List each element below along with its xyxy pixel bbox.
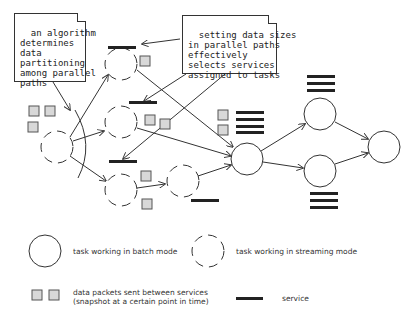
packet bbox=[28, 122, 38, 132]
legend-service-label: service bbox=[282, 294, 309, 303]
service-bottom bbox=[109, 160, 137, 163]
service-stack-merge bbox=[236, 111, 264, 134]
packet bbox=[142, 199, 152, 209]
packet bbox=[29, 106, 39, 116]
legend-packet-icon bbox=[32, 290, 42, 300]
note-partitioning: an algorithm determines data partitionin… bbox=[14, 13, 86, 82]
legend-batch-label: task working in batch mode bbox=[73, 247, 177, 256]
batch-task-sink bbox=[368, 131, 400, 163]
service-bottom-right bbox=[191, 199, 219, 202]
note-fold-icon bbox=[77, 13, 86, 22]
streaming-task-middle bbox=[105, 106, 137, 138]
batch-task-upper bbox=[304, 98, 336, 130]
service-top bbox=[108, 46, 136, 49]
legend-service-icon bbox=[236, 297, 263, 300]
streaming-task-bottom-right bbox=[167, 165, 199, 197]
legend-packet-icon bbox=[49, 290, 59, 300]
batch-task-merge bbox=[231, 143, 263, 175]
packet bbox=[145, 115, 155, 125]
streaming-task-bottom bbox=[105, 174, 137, 206]
streaming-task-top bbox=[105, 48, 137, 80]
legend-packets-label: data packets sent between services (snap… bbox=[73, 288, 209, 306]
service-middle bbox=[129, 101, 157, 104]
packet bbox=[218, 110, 228, 120]
packet bbox=[141, 171, 151, 181]
packet bbox=[140, 56, 150, 66]
batch-task-lower bbox=[304, 155, 336, 187]
note-services: setting data sizes in parallel paths eff… bbox=[182, 15, 277, 74]
legend-batch-icon bbox=[29, 235, 61, 267]
note-partitioning-text: an algorithm determines data partitionin… bbox=[20, 28, 96, 88]
note-fold-icon bbox=[268, 15, 277, 24]
packet bbox=[218, 125, 228, 135]
packet bbox=[160, 119, 170, 129]
streaming-task-source bbox=[41, 131, 73, 163]
service-stack-lower bbox=[310, 192, 338, 209]
service-stack-upper bbox=[307, 75, 335, 92]
legend-streaming-icon bbox=[192, 235, 224, 267]
packet bbox=[45, 106, 55, 116]
legend-streaming-label: task working in streaming mode bbox=[236, 247, 357, 256]
